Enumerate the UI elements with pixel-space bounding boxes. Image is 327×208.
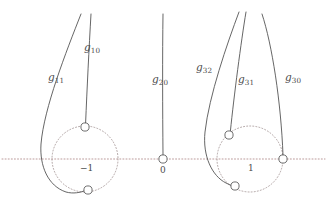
endpoint-markers-group [81,123,287,194]
curve-label-base: g [285,71,292,83]
curve-label-base: g [196,61,203,73]
diagram-canvas [0,0,327,208]
curve-label-g30: g30 [285,72,301,83]
curve-g10 [86,14,91,123]
point-label-zero: 0 [160,166,166,175]
point-label-one: 1 [248,164,254,173]
marker-g32-end [231,182,239,190]
marker-g31-end [225,131,233,139]
curve-label-subscript: 11 [55,76,65,85]
curve-label-g11: g11 [48,72,64,83]
curve-label-base: g [48,71,55,83]
curve-label-g31: g31 [238,74,254,85]
curve-label-g10: g10 [84,42,100,53]
curve-label-subscript: 31 [245,78,255,87]
curve-label-subscript: 20 [159,78,169,87]
curve-label-base: g [152,73,159,85]
curve-label-g32: g32 [196,62,212,73]
curve-label-subscript: 32 [203,66,213,75]
curve-g30 [262,14,283,155]
marker-zero [159,155,167,163]
geodesic-diagram: g11g10g20g32g31g30 −101 [0,0,327,208]
curve-label-base: g [84,41,91,53]
curve-label-subscript: 30 [292,76,302,85]
curve-label-g20: g20 [152,74,168,85]
marker-g11-end [84,186,92,194]
curve-label-base: g [238,73,245,85]
curve-label-subscript: 10 [91,46,101,55]
marker-g30-end [279,155,287,163]
curve-g11 [41,14,84,193]
point-label-minus-one: −1 [80,164,93,173]
marker-g10-end [81,123,89,131]
